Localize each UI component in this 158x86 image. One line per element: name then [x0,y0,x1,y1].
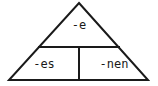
section-label-top: -e [0,19,158,31]
section-label-bottom-right: -nen [80,58,148,70]
triangle-outline-graphic [0,0,158,86]
section-label-bottom-left: -es [9,58,79,70]
triangle-diagram: -e -es -nen [0,0,158,86]
